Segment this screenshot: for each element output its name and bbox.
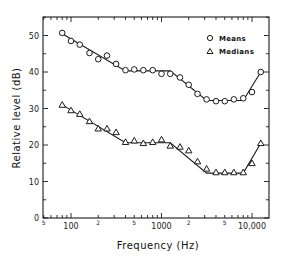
x-minor-tick-label: 5 — [223, 219, 227, 226]
data-point-circle — [77, 42, 83, 48]
data-point-triangle — [59, 102, 65, 108]
data-point-circle — [59, 30, 65, 36]
data-point-triangle — [258, 140, 264, 146]
x-tick-label: 1000 — [151, 222, 171, 231]
x-minor-tick-label: 5 — [42, 219, 46, 226]
legend-circle-icon — [207, 35, 212, 40]
data-point-triangle — [131, 137, 137, 143]
x-minor-tick-label: 5 — [132, 219, 136, 226]
y-tick-label: 10 — [29, 178, 39, 187]
data-point-circle — [113, 61, 119, 67]
data-point-circle — [104, 53, 110, 59]
data-point-circle — [186, 82, 192, 88]
legend-means-label: Means — [219, 35, 246, 43]
y-tick-label: 40 — [29, 68, 39, 77]
y-tick-label: 30 — [29, 105, 39, 114]
legend-medians-label: Medians — [219, 48, 254, 56]
data-point-circle — [87, 50, 93, 56]
data-point-circle — [141, 67, 147, 73]
data-point-triangle — [231, 169, 237, 175]
data-point-circle — [131, 67, 137, 73]
y-axis-title: Relative level (dB) — [11, 68, 22, 169]
data-point-triangle — [68, 107, 74, 113]
data-point-circle — [231, 97, 237, 103]
data-point-circle — [123, 67, 129, 73]
fit-line — [62, 34, 261, 101]
data-point-circle — [249, 89, 255, 95]
data-point-circle — [258, 69, 264, 75]
y-tick-label: 50 — [29, 32, 39, 41]
data-point-circle — [222, 98, 228, 104]
data-point-triangle — [86, 118, 92, 124]
x-minor-tick-label: 2 — [187, 219, 191, 226]
y-tick-label: 0 — [34, 214, 39, 223]
data-point-circle — [159, 71, 165, 77]
frequency-response-chart: 100100010,00052525 01020304050 Means Med… — [0, 0, 287, 259]
data-point-circle — [177, 75, 183, 81]
data-point-circle — [240, 95, 246, 101]
data-point-circle — [167, 71, 173, 77]
data-point-triangle — [158, 136, 164, 142]
data-point-triangle — [222, 169, 228, 175]
legend-triangle-icon — [207, 49, 213, 54]
data-point-triangle — [203, 166, 209, 172]
data-point-circle — [195, 91, 201, 97]
data-point-circle — [204, 97, 210, 103]
data-point-triangle — [194, 158, 200, 164]
data-point-triangle — [113, 129, 119, 135]
x-tick-label: 100 — [63, 222, 78, 231]
data-point-triangle — [104, 125, 110, 131]
x-tick-label: 10,000 — [238, 222, 266, 231]
data-point-circle — [95, 56, 101, 62]
legend: Means Medians — [207, 35, 254, 56]
data-point-circle — [213, 98, 219, 104]
data-point-triangle — [177, 144, 183, 150]
data-point-circle — [68, 38, 74, 44]
x-axis-title: Frequency (Hz) — [117, 240, 199, 251]
data-point-circle — [150, 67, 156, 73]
data-point-triangle — [213, 169, 219, 175]
data-point-triangle — [150, 139, 156, 145]
series-medians — [59, 102, 264, 175]
y-tick-label: 20 — [29, 141, 39, 150]
x-minor-tick-label: 2 — [96, 219, 100, 226]
data-point-triangle — [186, 147, 192, 153]
